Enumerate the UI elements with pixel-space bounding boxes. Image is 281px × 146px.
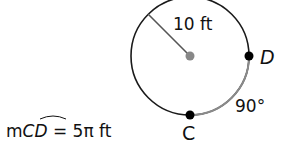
arc-measure: mCD = 5π ft <box>6 121 111 141</box>
radius-label: 10 ft <box>173 14 212 34</box>
arc-symbol <box>40 116 66 119</box>
arc-measure-arc: CD <box>23 121 48 141</box>
label-d: D <box>260 46 275 68</box>
point-c <box>186 111 195 120</box>
arc-measure-prefix: m <box>6 121 23 141</box>
arc-measure-value: = 5π ft <box>53 121 111 141</box>
point-d <box>245 52 254 61</box>
center-point <box>186 52 195 61</box>
label-c: C <box>182 122 195 144</box>
angle-label: 90° <box>235 96 265 116</box>
